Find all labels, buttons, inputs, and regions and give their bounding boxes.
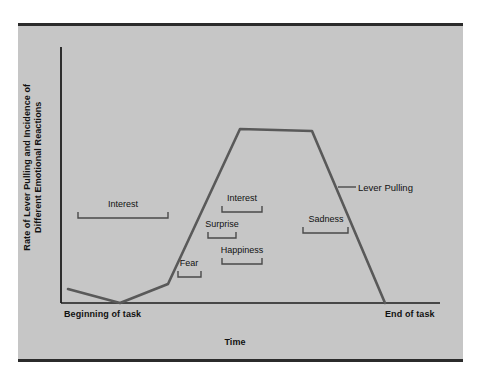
annotation-label-interest-right: Interest — [220, 193, 264, 203]
chart-plot-area — [0, 0, 487, 381]
bracket-interest-right — [222, 206, 262, 212]
x-axis-start-label: Beginning of task — [64, 309, 154, 320]
y-axis-label: Rate of Lever Pulling and Incidence of D… — [22, 72, 45, 262]
x-axis-label: Time — [175, 337, 295, 348]
bracket-interest-left — [78, 212, 168, 218]
annotation-label-surprise: Surprise — [199, 219, 245, 229]
figure-container: Rate of Lever Pulling and Incidence of D… — [0, 0, 487, 381]
annotation-label-sadness: Sadness — [302, 214, 350, 224]
bracket-surprise — [208, 232, 236, 238]
x-axis-end-label: End of task — [385, 309, 455, 320]
annotation-label-interest-left: Interest — [78, 199, 168, 209]
bracket-sadness — [303, 227, 348, 233]
bracket-fear — [178, 271, 201, 277]
annotation-label-fear: Fear — [173, 258, 205, 268]
annotation-label-happiness: Happiness — [213, 245, 271, 255]
bracket-happiness — [222, 258, 262, 264]
legend-series-label: Lever Pulling — [358, 182, 413, 193]
